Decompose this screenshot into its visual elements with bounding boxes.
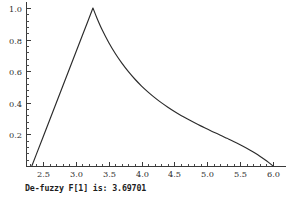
- curve-group: [32, 8, 273, 166]
- y-tick-label-group: 0.20.40.60.81.0: [9, 4, 22, 140]
- x-tick-label: 2.5: [37, 169, 50, 179]
- x-tick-label: 3.0: [70, 169, 83, 179]
- y-tick-label: 0.8: [9, 36, 22, 46]
- axes-group: [26, 2, 286, 167]
- x-tick-label: 3.5: [103, 169, 116, 179]
- y-tick-label: 1.0: [9, 4, 22, 14]
- y-tick-label: 0.2: [9, 130, 22, 140]
- x-tick-label: 4.0: [136, 169, 149, 179]
- membership-function-chart: 0.20.40.60.81.0 2.53.03.54.04.55.05.56.0: [0, 0, 289, 198]
- membership-curve: [32, 8, 273, 166]
- x-tick-label: 6.0: [267, 169, 280, 179]
- x-tick-group: [31, 162, 274, 167]
- x-tick-label: 4.5: [168, 169, 181, 179]
- y-tick-label: 0.4: [9, 99, 22, 109]
- y-tick-label: 0.6: [9, 67, 22, 77]
- x-tick-label: 5.5: [234, 169, 247, 179]
- x-tick-label: 5.0: [201, 169, 214, 179]
- x-tick-label-group: 2.53.03.54.04.55.05.56.0: [37, 169, 280, 179]
- defuzzify-result-caption: De-fuzzy F[1] is: 3.69701: [25, 183, 146, 193]
- plot-root: 0.20.40.60.81.0 2.53.03.54.04.55.05.56.0…: [0, 0, 289, 198]
